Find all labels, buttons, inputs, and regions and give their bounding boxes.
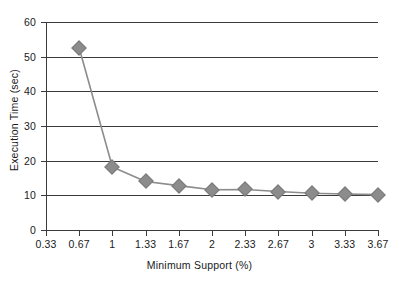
y-tick-50	[41, 57, 46, 58]
y-tick-10	[41, 195, 46, 196]
gridline-50	[46, 57, 378, 58]
x-tick-label-5: 2	[209, 238, 215, 250]
x-tick-6	[245, 230, 246, 236]
x-tick-label-3: 1.33	[135, 238, 156, 250]
y-axis-line	[46, 22, 47, 230]
x-tick-label-6: 2.33	[235, 238, 256, 250]
x-tick-9	[345, 230, 346, 236]
x-tick-10	[378, 230, 379, 236]
x-tick-8	[312, 230, 313, 236]
x-tick-label-9: 3.33	[334, 238, 355, 250]
x-tick-0	[46, 230, 47, 236]
y-tick-20	[41, 161, 46, 162]
x-tick-label-1: 0.67	[69, 238, 90, 250]
x-tick-label-2: 1	[109, 238, 115, 250]
x-tick-2	[112, 230, 113, 236]
x-tick-3	[146, 230, 147, 236]
x-tick-5	[212, 230, 213, 236]
x-tick-7	[278, 230, 279, 236]
y-tick-40	[41, 91, 46, 92]
x-tick-label-7: 2.67	[268, 238, 289, 250]
x-axis-title: Minimum Support (%)	[0, 259, 399, 271]
y-axis-title: Execution Time (sec)	[8, 30, 20, 210]
gridline-60	[46, 22, 378, 23]
y-tick-60	[41, 22, 46, 23]
x-tick-1	[79, 230, 80, 236]
x-tick-label-10: 3.67	[367, 238, 388, 250]
gridline-40	[46, 91, 378, 92]
x-tick-label-8: 3	[309, 238, 315, 250]
x-tick-label-4: 1.67	[168, 238, 189, 250]
x-tick-4	[179, 230, 180, 236]
plot-area	[46, 22, 378, 230]
y-tick-30	[41, 126, 46, 127]
y-tick-label-60: 60	[6, 16, 36, 28]
y-tick-label-0: 0	[6, 224, 36, 236]
x-tick-label-0: 0.33	[35, 238, 56, 250]
gridline-30	[46, 126, 378, 127]
gridline-20	[46, 161, 378, 162]
chart-container: 60 50 40 30 20 10 0 0.33 0.67 1 1.33 1.6…	[0, 0, 399, 284]
